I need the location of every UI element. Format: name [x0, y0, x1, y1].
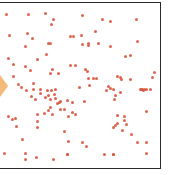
player-layer: [0, 0, 170, 175]
game-stage[interactable]: [0, 0, 170, 175]
player-blob-icon: [0, 75, 8, 97]
